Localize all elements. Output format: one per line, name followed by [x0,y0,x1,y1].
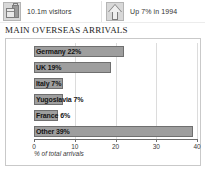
gridline [197,43,198,139]
arrow-up-icon [106,2,124,21]
arrow-head-icon [109,5,121,12]
x-axis-tick-label: 0 [32,143,36,150]
stat-visitors-label: 10.1m visitors [27,8,72,15]
bar-row[interactable]: Other 39% [34,126,197,137]
bar-label: France 6% [36,111,70,120]
x-axis-caption: % of total arrivals [34,150,84,157]
arrow-stem-icon [112,12,118,20]
x-axis-tick-label: 30 [153,143,160,150]
bar-label: Other 39% [36,127,70,136]
bar-label: Germany 22% [36,47,81,56]
x-axis-tick-label: 20 [112,143,119,150]
bar-row[interactable]: Germany 22% [34,46,197,57]
x-axis-tick-label: 40 [193,143,200,150]
stats-bottom-rule [0,22,205,23]
stats-divider [101,1,102,22]
bar-row[interactable]: UK 19% [34,62,197,73]
stat-growth-label: Up 7% in 1994 [130,8,177,15]
bar-label: UK 19% [36,63,61,72]
stat-growth: Up 7% in 1994 [102,0,205,23]
luggage-icon [3,2,21,21]
stat-visitors: 10.1m visitors [0,0,102,23]
bar-row[interactable]: France 6% [34,110,197,121]
chart-panel: 010203040Germany 22%UK 19%Italy 7%Yugosl… [5,38,201,166]
chart-plot-area: 010203040Germany 22%UK 19%Italy 7%Yugosl… [34,43,197,139]
bar-row[interactable]: Italy 7% [34,78,197,89]
bar-label: Italy 7% [36,79,61,88]
luggage-front-icon [6,8,15,18]
page-title: MAIN OVERSEAS ARRIVALS [5,25,128,35]
luggage-strap-icon [7,11,14,12]
stats-strip: 10.1m visitors Up 7% in 1994 [0,0,205,23]
x-axis-tick-label: 10 [71,143,78,150]
x-axis-line [34,139,198,140]
bar-label: Yugoslavia 7% [36,95,83,104]
bar-row[interactable]: Yugoslavia 7% [34,94,197,105]
